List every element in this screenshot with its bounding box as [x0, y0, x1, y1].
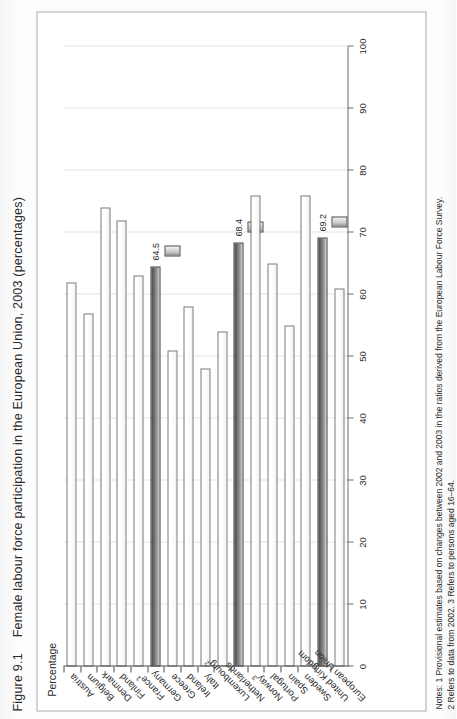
value-axis-tick-label: 20: [356, 537, 367, 548]
category-axis-tick: [80, 666, 81, 672]
bar-european-union[interactable]: [334, 288, 344, 666]
value-axis-tick: [347, 107, 353, 108]
bar-united-kingdom[interactable]: [317, 237, 327, 666]
value-axis-tick-label: 50: [356, 351, 367, 362]
figure-number: Figure 9.1: [10, 653, 24, 711]
bar-value-swatch: [164, 245, 180, 256]
category-axis-tick: [163, 666, 164, 672]
category-axis-tick: [180, 666, 181, 672]
chart-frame: Percentage 64.568.469.2 1009080706050403…: [36, 11, 426, 711]
figure-caption: Figure 9.1Female labour force participat…: [10, 11, 24, 711]
bar-value-swatch: [331, 216, 347, 227]
bar-luxembourg[interactable]: [217, 331, 227, 666]
bar-spain[interactable]: [284, 325, 294, 666]
bar-denmark[interactable]: [100, 207, 110, 666]
gridline: [63, 169, 347, 170]
figure-notes: Notes: 1 Provisional estimates based on …: [432, 9, 457, 709]
category-axis-tick: [247, 666, 248, 672]
gridline: [63, 45, 347, 46]
value-axis-tick-label: 40: [356, 413, 367, 424]
bar-value-label: 69.2: [317, 213, 327, 231]
bar-value-label: 64.5: [150, 243, 160, 261]
value-axis-tick: [347, 231, 353, 232]
value-axis-tick: [347, 293, 353, 294]
value-axis-tick: [347, 417, 353, 418]
category-axis-tick: [96, 666, 97, 672]
bar-france[interactable]: [133, 275, 143, 666]
value-axis-tick: [347, 665, 353, 666]
bar-sweden[interactable]: [300, 195, 310, 666]
category-axis-tick: [280, 666, 281, 672]
bar-greece[interactable]: [167, 350, 177, 666]
notes-line-1: Notes: 1 Provisional estimates based on …: [432, 9, 444, 709]
bar-value-label: 68.4: [233, 218, 243, 236]
value-axis-tick-label: 0: [356, 663, 367, 668]
bar-portugal[interactable]: [267, 263, 277, 666]
value-axis-tick-label: 60: [356, 289, 367, 300]
value-axis-tick: [347, 169, 353, 170]
bar-norway[interactable]: [250, 195, 260, 666]
bar-finland[interactable]: [116, 220, 126, 666]
bar-italy[interactable]: [200, 368, 210, 666]
plot-area: 64.568.469.2: [63, 46, 347, 666]
gridline: [63, 107, 347, 108]
value-axis-tick-label: 70: [356, 227, 367, 238]
value-axis-tick: [347, 479, 353, 480]
category-axis-tick: [63, 666, 64, 672]
value-axis-tick-label: 90: [356, 103, 367, 114]
category-axis-tick: [130, 666, 131, 672]
category-axis-tick: [263, 666, 264, 672]
bar-ireland[interactable]: [183, 306, 193, 666]
value-axis-tick: [347, 355, 353, 356]
value-axis-tick: [347, 541, 353, 542]
category-axis-tick: [297, 666, 298, 672]
value-axis-tick-label: 30: [356, 475, 367, 486]
value-axis-tick-label: 100: [356, 38, 367, 54]
value-axis-tick-label: 80: [356, 165, 367, 176]
value-axis-tick: [347, 45, 353, 46]
bar-belgium[interactable]: [83, 313, 93, 666]
value-axis-tick-label: 10: [356, 599, 367, 610]
category-axis-tick: [197, 666, 198, 672]
value-axis-tick: [347, 603, 353, 604]
category-axis-tick: [113, 666, 114, 672]
figure-title: Female labour force participation in the…: [10, 196, 24, 636]
bar-netherlands[interactable]: [233, 242, 243, 666]
bar-austria[interactable]: [66, 282, 76, 666]
bar-germany[interactable]: [150, 266, 160, 666]
notes-line-2: 2 Refers to data from 2002. 3 Refers to …: [444, 9, 456, 709]
axis-title-percentage: Percentage: [45, 642, 57, 696]
category-axis-tick: [147, 666, 148, 672]
